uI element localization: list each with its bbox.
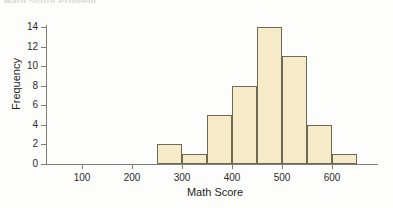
y-tick bbox=[41, 105, 46, 106]
x-tick-label: 600 bbox=[317, 172, 347, 183]
x-tick bbox=[332, 164, 333, 169]
y-tick bbox=[41, 86, 46, 87]
histogram-bar bbox=[257, 27, 282, 164]
x-tick bbox=[82, 164, 83, 169]
histogram-bar bbox=[282, 56, 307, 164]
x-axis-title: Math Score bbox=[150, 186, 280, 198]
y-tick-label: 12 bbox=[20, 42, 38, 52]
histogram-bar bbox=[207, 115, 232, 164]
y-tick-label: 10 bbox=[20, 61, 38, 71]
x-tick bbox=[132, 164, 133, 169]
y-tick bbox=[41, 66, 46, 67]
y-tick bbox=[41, 47, 46, 48]
x-tick-label: 200 bbox=[117, 172, 147, 183]
y-axis-title: Frequency bbox=[10, 49, 22, 119]
y-tick-label: 14 bbox=[20, 22, 38, 32]
x-tick bbox=[232, 164, 233, 169]
y-tick-label: 0 bbox=[20, 159, 38, 169]
x-tick-label: 400 bbox=[217, 172, 247, 183]
x-tick-label: 500 bbox=[267, 172, 297, 183]
y-tick bbox=[41, 125, 46, 126]
y-tick bbox=[41, 164, 46, 165]
histogram-bar bbox=[232, 86, 257, 164]
histogram-bar bbox=[157, 144, 182, 164]
x-tick-label: 300 bbox=[167, 172, 197, 183]
y-tick bbox=[41, 144, 46, 145]
y-tick-label: 4 bbox=[20, 120, 38, 130]
histogram-bar bbox=[307, 125, 332, 164]
y-axis-line bbox=[46, 25, 47, 165]
x-tick bbox=[182, 164, 183, 169]
x-tick bbox=[282, 164, 283, 169]
y-tick-label: 6 bbox=[20, 100, 38, 110]
y-tick bbox=[41, 27, 46, 28]
y-tick-label: 2 bbox=[20, 139, 38, 149]
x-axis-line bbox=[46, 164, 378, 165]
plot-area: 02468101214 100200300400500600 Frequency… bbox=[0, 0, 393, 208]
histogram-figure: 02468101214 100200300400500600 Frequency… bbox=[0, 0, 393, 208]
x-tick-label: 100 bbox=[67, 172, 97, 183]
y-tick-label: 8 bbox=[20, 81, 38, 91]
histogram-bar bbox=[332, 154, 357, 164]
histogram-bar bbox=[182, 154, 207, 164]
